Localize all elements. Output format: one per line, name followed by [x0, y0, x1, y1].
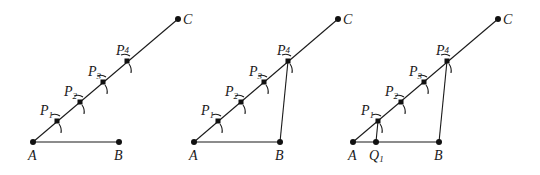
point-p4 — [286, 59, 291, 64]
segment-p1q1 — [376, 121, 378, 142]
label-p3: P3 — [87, 64, 102, 81]
label-p2: P2 — [63, 84, 78, 101]
label-p4: P4 — [115, 43, 130, 58]
label-a: A — [347, 148, 357, 163]
point-p3 — [262, 80, 267, 85]
point-p1 — [376, 119, 381, 124]
label-p3: P3 — [408, 64, 423, 81]
panel-3: A Q1 B C P1 P2 P3 P4 — [347, 12, 513, 164]
label-a: A — [27, 148, 37, 163]
label-c: C — [503, 12, 513, 27]
point-p1 — [55, 119, 60, 124]
panel-1: A B C P1 P2 P3 P4 — [27, 12, 193, 163]
label-c: C — [343, 12, 353, 27]
label-b: B — [275, 148, 284, 163]
label-p2: P2 — [384, 84, 399, 101]
point-a — [30, 139, 36, 145]
label-p1: P1 — [39, 103, 53, 120]
point-c — [175, 16, 181, 22]
label-c: C — [183, 12, 193, 27]
point-p2 — [399, 100, 404, 105]
point-p4 — [445, 59, 450, 64]
point-a — [191, 139, 197, 145]
label-p1: P1 — [200, 103, 214, 120]
segment-p4b — [280, 61, 288, 142]
point-p4 — [125, 59, 130, 64]
point-b — [436, 139, 442, 145]
label-a: A — [188, 148, 198, 163]
panel-2: A B C P1 P2 P3 P4 — [188, 12, 353, 163]
point-b — [277, 139, 283, 145]
point-p3 — [422, 80, 427, 85]
label-p2: P2 — [224, 84, 239, 101]
label-p4: P4 — [435, 43, 450, 58]
point-p1 — [216, 119, 221, 124]
label-p4: P4 — [276, 43, 291, 58]
point-a — [350, 139, 356, 145]
point-c — [335, 16, 341, 22]
label-p3: P3 — [248, 64, 263, 81]
construction-diagram: A B C P1 P2 P3 P4 A B C P1 P2 P3 P4 — [0, 0, 540, 175]
point-b — [116, 139, 122, 145]
point-q1 — [373, 139, 379, 145]
point-p2 — [78, 100, 83, 105]
label-q1: Q1 — [369, 148, 384, 164]
label-p1: P1 — [360, 103, 374, 120]
point-c — [495, 16, 501, 22]
point-p2 — [239, 100, 244, 105]
label-b: B — [434, 148, 443, 163]
segment-p4b — [439, 61, 447, 142]
label-b: B — [114, 148, 123, 163]
point-p3 — [101, 80, 106, 85]
